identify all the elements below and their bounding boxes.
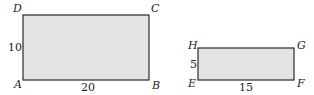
vertex-label-g: G [297, 39, 306, 52]
vertex-label-e: E [187, 77, 196, 90]
side-label-height-10: 10 [8, 41, 22, 54]
side-label-width-15: 15 [239, 81, 253, 94]
side-label-width-20: 20 [81, 81, 95, 94]
side-label-height-5: 5 [190, 58, 197, 71]
vertex-label-h: H [187, 39, 198, 52]
vertex-label-d: D [12, 2, 22, 15]
vertex-label-a: A [13, 78, 22, 91]
vertex-label-c: C [151, 2, 160, 15]
rectangle-abcd: D C A B 10 20 [8, 2, 160, 94]
vertex-label-b: B [151, 79, 160, 92]
rectangle-abcd-shape [23, 15, 149, 80]
rectangle-efgh-shape [198, 48, 294, 80]
similar-rectangles-diagram: D C A B 10 20 H G E F 5 15 [0, 0, 314, 95]
rectangle-efgh: H G E F 5 15 [187, 39, 306, 94]
vertex-label-f: F [296, 77, 305, 90]
